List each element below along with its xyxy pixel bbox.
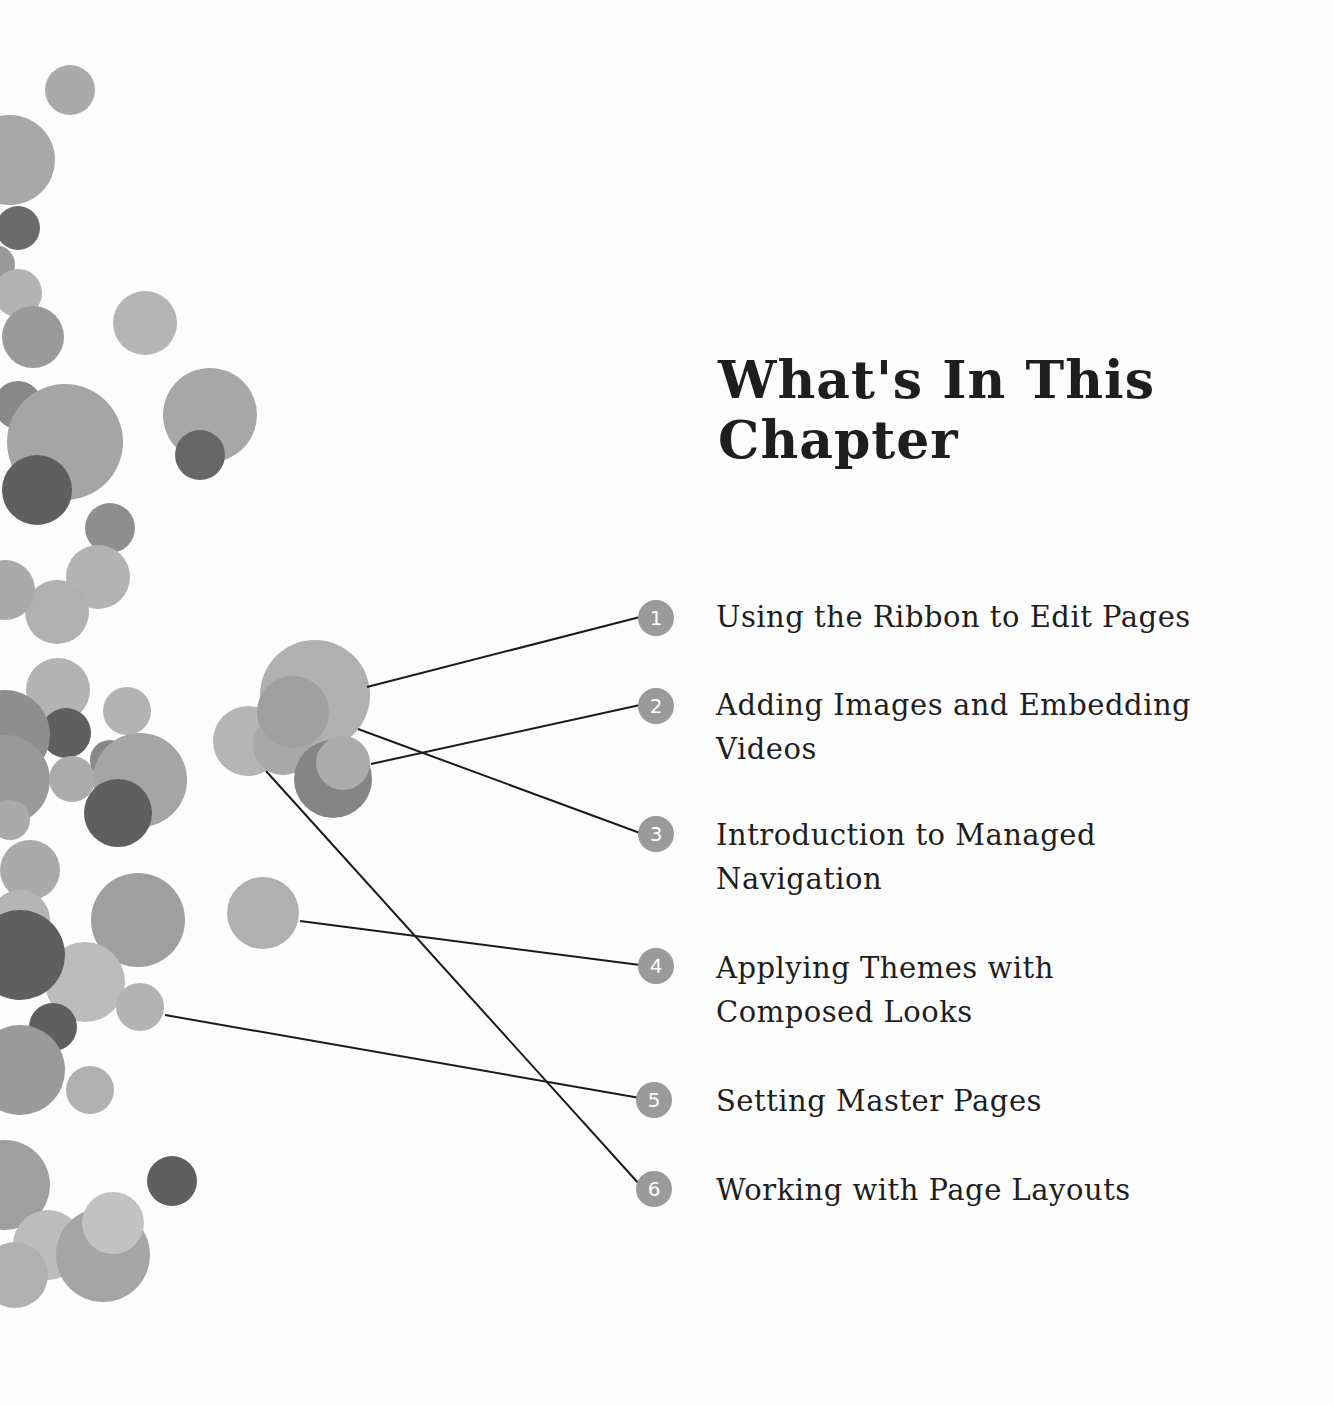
number-badge-5: 5 <box>636 1082 672 1118</box>
toc-item-ribbon[interactable]: Using the Ribbon to Edit Pages <box>716 595 1191 639</box>
number-badge-2: 2 <box>638 688 674 724</box>
chapter-title: What's In This Chapter <box>718 350 1155 470</box>
toc-item-themes[interactable]: Applying Themes with Composed Looks <box>716 946 1136 1034</box>
toc-item-page-layouts[interactable]: Working with Page Layouts <box>716 1168 1131 1212</box>
number-badge-1: 1 <box>638 600 674 636</box>
number-badge-3: 3 <box>638 816 674 852</box>
toc-item-images-videos[interactable]: Adding Images and Embedding Videos <box>716 683 1256 771</box>
title-line-2: Chapter <box>718 409 959 470</box>
toc-item-managed-navigation[interactable]: Introduction to Managed Navigation <box>716 813 1176 901</box>
title-line-1: What's In This <box>718 349 1155 410</box>
toc-item-master-pages[interactable]: Setting Master Pages <box>716 1079 1042 1123</box>
bubbles <box>0 65 372 1308</box>
number-badge-4: 4 <box>638 948 674 984</box>
number-badge-6: 6 <box>636 1171 672 1207</box>
